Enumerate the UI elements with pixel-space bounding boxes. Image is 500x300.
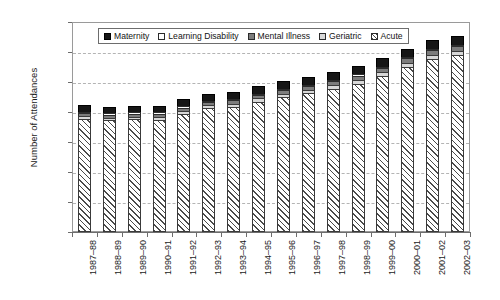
bar-column[interactable]: [451, 36, 464, 232]
x-tick-mark: [445, 232, 446, 237]
bar-segment-acute: [426, 59, 439, 232]
geriatric-swatch: [319, 33, 326, 40]
x-tick-mark: [271, 232, 272, 237]
x-axis-label: 2002–03: [462, 240, 472, 275]
x-axis-label: 2000–01: [412, 240, 422, 275]
legend-label: Acute: [381, 31, 403, 41]
bar-segment-acute: [153, 120, 166, 233]
bar-segment-maternity: [252, 86, 265, 94]
legend-item[interactable]: Mental Illness: [248, 31, 311, 41]
bar-segment-maternity: [78, 105, 91, 112]
x-tick-mark: [147, 232, 148, 237]
bar-column[interactable]: [177, 99, 190, 232]
legend-label: Geriatric: [329, 31, 361, 41]
bar-segment-acute: [302, 93, 315, 232]
bar-segment-acute: [103, 120, 116, 232]
bar-segment-maternity: [302, 77, 315, 85]
legend-item[interactable]: Geriatric: [319, 31, 361, 41]
x-tick-mark: [395, 232, 396, 237]
x-tick-mark: [221, 232, 222, 237]
x-tick-mark: [470, 232, 471, 237]
bar-column[interactable]: [302, 77, 315, 232]
bar-segment-maternity: [128, 106, 141, 113]
x-axis-label: 1990–91: [163, 240, 173, 275]
bar-column[interactable]: [401, 49, 414, 232]
mental-illness-swatch: [248, 33, 255, 40]
bar-column[interactable]: [153, 106, 166, 232]
bars-layer: [72, 22, 470, 232]
x-tick-mark: [122, 232, 123, 237]
maternity-swatch: [104, 33, 111, 40]
bar-column[interactable]: [376, 58, 389, 232]
chart-legend: MaternityLearning DisabilityMental Illne…: [98, 28, 409, 44]
bar-column[interactable]: [128, 106, 141, 232]
bar-segment-maternity: [103, 107, 116, 114]
x-axis-label: 1995–96: [287, 240, 297, 275]
x-axis-label: 1988–89: [113, 240, 123, 275]
y-axis-title: Number of Attendances: [28, 38, 39, 198]
bar-segment-acute: [177, 114, 190, 233]
bar-segment-acute: [128, 119, 141, 232]
bar-segment-maternity: [177, 99, 190, 106]
bar-segment-maternity: [202, 94, 215, 101]
legend-item[interactable]: Learning Disability: [158, 31, 238, 41]
bar-segment-acute: [401, 67, 414, 232]
bar-segment-acute: [352, 84, 365, 233]
bar-segment-acute: [376, 76, 389, 232]
bar-column[interactable]: [252, 86, 265, 232]
bar-segment-maternity: [153, 106, 166, 113]
x-tick-mark: [346, 232, 347, 237]
x-tick-mark: [420, 232, 421, 237]
bar-segment-maternity: [277, 81, 290, 89]
x-tick-mark: [196, 232, 197, 237]
x-tick-mark: [97, 232, 98, 237]
bar-segment-acute: [202, 108, 215, 232]
acute-swatch: [371, 33, 378, 40]
bar-segment-acute: [78, 119, 91, 232]
legend-item[interactable]: Acute: [371, 31, 403, 41]
bar-segment-acute: [252, 102, 265, 233]
x-axis-label: 1998–99: [362, 240, 372, 275]
x-tick-mark: [371, 232, 372, 237]
x-axis-label: 2001–02: [437, 240, 447, 275]
bar-segment-acute: [327, 89, 340, 232]
x-axis-label: 1999–00: [387, 240, 397, 275]
bar-segment-maternity: [227, 92, 240, 100]
x-axis-label: 1987–88: [88, 240, 98, 275]
bar-column[interactable]: [327, 72, 340, 232]
bar-segment-maternity: [327, 72, 340, 80]
x-axis-label: 1989–90: [138, 240, 148, 275]
x-axis-label: 1991–92: [188, 240, 198, 275]
legend-label: Mental Illness: [258, 31, 311, 41]
bar-segment-maternity: [451, 36, 464, 45]
bar-column[interactable]: [202, 94, 215, 232]
bar-segment-acute: [227, 107, 240, 232]
bar-segment-acute: [451, 55, 464, 232]
x-tick-mark: [296, 232, 297, 237]
bar-segment-maternity: [376, 58, 389, 66]
x-tick-mark: [246, 232, 247, 237]
stacked-bar-chart: Number of Attendances 14 000 00012 000 0…: [0, 0, 500, 300]
legend-item[interactable]: Maternity: [104, 31, 149, 41]
bar-column[interactable]: [227, 92, 240, 232]
bar-column[interactable]: [78, 105, 91, 232]
bar-column[interactable]: [426, 40, 439, 232]
x-axis-label: 1997–98: [337, 240, 347, 275]
x-tick-mark: [72, 232, 73, 237]
x-tick-mark: [321, 232, 322, 237]
x-axis-label: 1992–93: [213, 240, 223, 275]
bar-column[interactable]: [352, 66, 365, 232]
bar-segment-maternity: [401, 49, 414, 58]
bar-segment-acute: [277, 97, 290, 232]
bar-segment-maternity: [426, 40, 439, 49]
bar-column[interactable]: [103, 107, 116, 232]
legend-label: Learning Disability: [168, 31, 238, 41]
bar-column[interactable]: [277, 81, 290, 232]
x-axis-label: 1993–94: [238, 240, 248, 275]
learning-disability-swatch: [158, 33, 165, 40]
x-tick-mark: [172, 232, 173, 237]
legend-label: Maternity: [114, 31, 149, 41]
x-axis-label: 1996–97: [312, 240, 322, 275]
bar-segment-maternity: [352, 66, 365, 74]
x-axis-label: 1994–95: [263, 240, 273, 275]
